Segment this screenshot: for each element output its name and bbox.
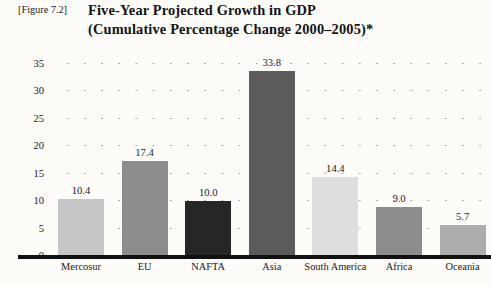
x-tick-label: EU bbox=[138, 261, 152, 272]
y-tick-label: 20 bbox=[18, 140, 44, 151]
bar-value-label: 9.0 bbox=[392, 193, 405, 204]
bar-value-label: 10.4 bbox=[72, 185, 91, 196]
bar-value-label: 14.4 bbox=[326, 163, 345, 174]
bar-value-label: 17.4 bbox=[135, 147, 154, 158]
bar-value-label: 33.8 bbox=[263, 57, 282, 68]
figure-tag: [Figure 7.2] bbox=[18, 4, 67, 15]
bar: 9.0 bbox=[376, 207, 422, 256]
bar: 17.4 bbox=[122, 161, 168, 256]
x-axis-line bbox=[18, 255, 491, 259]
bar-value-label: 10.0 bbox=[199, 187, 218, 198]
bar: 5.7 bbox=[440, 225, 486, 256]
x-tick-label: NAFTA bbox=[191, 261, 225, 272]
figure-title-line-1: Five-Year Projected Growth in GDP bbox=[88, 1, 488, 20]
bar: 33.8 bbox=[249, 71, 295, 256]
x-tick-label: Asia bbox=[262, 261, 281, 272]
x-tick-label: Oceania bbox=[446, 261, 480, 272]
plot-area: 05101520253035 10.417.410.033.814.49.05.… bbox=[18, 42, 491, 286]
x-tick-label: Africa bbox=[386, 261, 413, 272]
bar-value-label: 5.7 bbox=[456, 211, 469, 222]
x-tick-label: Mercosur bbox=[61, 261, 101, 272]
bar: 14.4 bbox=[312, 177, 358, 256]
y-tick-label: 30 bbox=[18, 85, 44, 96]
y-tick-label: 5 bbox=[18, 222, 44, 233]
y-tick-label: 25 bbox=[18, 112, 44, 123]
y-tick-label: 15 bbox=[18, 167, 44, 178]
figure-title-line-2: (Cumulative Percentage Change 2000–2005)… bbox=[88, 20, 488, 39]
figure-title-block: [Figure 7.2] Five-Year Projected Growth … bbox=[0, 0, 491, 42]
x-tick-label: South America bbox=[304, 261, 366, 272]
y-tick-label: 10 bbox=[18, 195, 44, 206]
y-tick-label: 35 bbox=[18, 58, 44, 69]
bar: 10.0 bbox=[185, 201, 231, 256]
bar: 10.4 bbox=[58, 199, 104, 256]
chart-container: 05101520253035 10.417.410.033.814.49.05.… bbox=[0, 42, 491, 286]
figure-title: Five-Year Projected Growth in GDP (Cumul… bbox=[88, 1, 488, 39]
